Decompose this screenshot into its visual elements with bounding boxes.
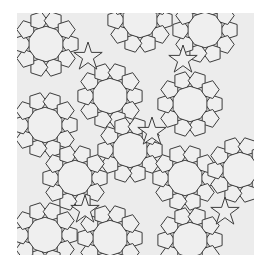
decagon-tile — [113, 132, 147, 168]
pentagon-tile — [252, 147, 265, 165]
pentagon-tile — [95, 252, 112, 270]
decagon-tile — [93, 78, 127, 114]
pentagon-tile — [255, 161, 265, 179]
tiling-figure — [0, 0, 265, 276]
decagon-tile — [188, 12, 222, 48]
decagon-tile — [93, 220, 127, 256]
pentagon-tile — [125, 0, 142, 6]
decagon-tile — [58, 160, 92, 196]
pentagon-tile — [188, 254, 205, 272]
decagon-tile — [168, 160, 202, 196]
decagon-tile — [223, 152, 257, 188]
decagon-tile — [173, 86, 207, 122]
decagon-tile — [28, 217, 62, 253]
pentagon-tile — [175, 254, 192, 272]
decagon-tile — [123, 2, 157, 38]
decagon-tile — [173, 222, 207, 258]
pentagon-tile — [111, 0, 128, 15]
decagon-tile — [28, 107, 62, 143]
decagon-tile — [29, 26, 63, 62]
pentagon-tile — [252, 176, 265, 194]
pentagon-tile — [108, 252, 125, 270]
pentagon-tile — [152, 0, 169, 15]
pentagon-tile — [138, 0, 155, 6]
